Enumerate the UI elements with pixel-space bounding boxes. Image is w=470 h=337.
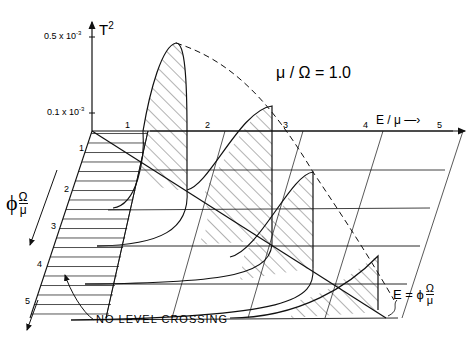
horizontal-axis-label: E / μ —›	[376, 113, 420, 127]
vertical-axis	[89, 22, 95, 131]
parameter-label: μ / Ω = 1.0	[276, 64, 351, 82]
phi-tick-3: 3	[51, 221, 56, 231]
e-tick-1: 1	[125, 120, 130, 130]
e-tick-5: 5	[437, 120, 442, 130]
depth-axis-arrow	[30, 170, 57, 245]
tick-0.1e-3: 0.1 x 10-3	[47, 106, 84, 117]
e-tick-4: 4	[363, 120, 368, 130]
e-tick-3: 3	[283, 120, 288, 130]
tick-0.5e-3: 0.5 x 10-3	[44, 30, 81, 41]
left-strip	[30, 131, 148, 318]
phi-tick-4: 4	[37, 259, 42, 269]
no-level-crossing-annotation: NO LEVEL CROSSING	[96, 313, 228, 325]
diagonal-label: E = ϕ Ω μ	[393, 283, 434, 306]
depth-axis-label: ϕ Ω μ	[6, 190, 28, 216]
phi-tick-2: 2	[64, 184, 69, 194]
phi-tick-1: 1	[79, 143, 84, 153]
e-tick-2: 2	[205, 120, 210, 130]
phi-tick-5: 5	[25, 296, 30, 306]
t2-label: T2	[99, 20, 114, 38]
